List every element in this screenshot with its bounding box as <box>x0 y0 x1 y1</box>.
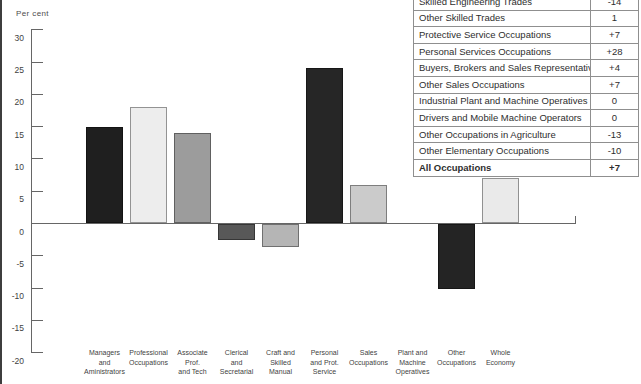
y-tick-label: 15 <box>0 130 24 140</box>
y-tick-label: 30 <box>0 33 24 43</box>
y-tick-label: 10 <box>0 162 24 172</box>
y-tick <box>31 255 43 256</box>
table-row: Protective Service Occupations+7 <box>414 27 639 44</box>
x-axis-end-tick <box>575 216 576 224</box>
table-row: All Occupations+7 <box>414 159 639 176</box>
occupation-value-cell: -14 <box>591 0 639 10</box>
occupation-value-cell: 0 <box>591 110 639 127</box>
occupation-name-cell: Skilled Engineering Trades <box>414 0 591 10</box>
y-tick <box>31 191 43 192</box>
y-tick <box>31 126 43 127</box>
y-tick <box>31 62 43 63</box>
occupation-value-cell: 0 <box>591 93 639 110</box>
occupation-name-cell: Other Skilled Trades <box>414 10 591 27</box>
table-row: Other Skilled Trades1 <box>414 10 639 27</box>
occupation-name-cell: Other Sales Occupations <box>414 76 591 93</box>
y-tick <box>31 352 43 353</box>
occupation-value-cell: 1 <box>591 10 639 27</box>
occupation-name-cell: Other Elementary Occupations <box>414 143 591 160</box>
occupation-value-cell: +7 <box>591 27 639 44</box>
y-tick <box>31 94 43 95</box>
table-row: Buyers, Brokers and Sales Representative… <box>414 60 639 77</box>
occupation-value-cell: +7 <box>591 76 639 93</box>
table-row: Other Elementary Occupations-10 <box>414 143 639 160</box>
bar-clerical-and-secretarial <box>218 224 255 240</box>
bar-professional-occupations <box>130 107 167 223</box>
occupation-value-cell: +4 <box>591 60 639 77</box>
bar-managers-and-aministrators <box>86 127 123 224</box>
y-tick-label: 5 <box>0 194 24 204</box>
occupation-value-cell: -13 <box>591 126 639 143</box>
occupation-name-cell: Drivers and Mobile Machine Operators <box>414 110 591 127</box>
table-row: Drivers and Mobile Machine Operators0 <box>414 110 639 127</box>
occupation-name-cell: Buyers, Brokers and Sales Representative… <box>414 60 591 77</box>
occupation-name-cell: Personal Services Occupations <box>414 43 591 60</box>
y-tick <box>31 288 43 289</box>
y-tick-label: 0 <box>0 227 24 237</box>
y-tick-label: -20 <box>0 356 24 366</box>
occupation-name-cell: Other Occupations in Agriculture <box>414 126 591 143</box>
bar-sales-occupations <box>350 185 387 224</box>
table-row: Skilled Engineering Trades-14 <box>414 0 639 10</box>
y-tick-label: -10 <box>0 291 24 301</box>
y-tick <box>31 29 43 30</box>
occupation-value-cell: +28 <box>591 43 639 60</box>
y-tick-label: -5 <box>0 259 24 269</box>
y-tick-label: 20 <box>0 97 24 107</box>
y-tick <box>31 158 43 159</box>
bar-other-occupations <box>438 224 475 289</box>
bar-craft-and-skilled-manual <box>262 224 299 247</box>
bar-whole-economy <box>482 178 519 223</box>
y-tick-label: -15 <box>0 323 24 333</box>
table-row: Other Occupations in Agriculture-13 <box>414 126 639 143</box>
occupation-name-cell: Industrial Plant and Machine Operatives <box>414 93 591 110</box>
table-row: Personal Services Occupations+28 <box>414 43 639 60</box>
occupation-name-cell: Protective Service Occupations <box>414 27 591 44</box>
occupation-name-cell: All Occupations <box>414 159 591 176</box>
table-row: Other Sales Occupations+7 <box>414 76 639 93</box>
table-row: Industrial Plant and Machine Operatives0 <box>414 93 639 110</box>
y-tick-label: 25 <box>0 65 24 75</box>
occupation-value-cell: +7 <box>591 159 639 176</box>
occupation-value-cell: -10 <box>591 143 639 160</box>
occupations-table: Skilled Engineering Trades-14Other Skill… <box>413 0 639 177</box>
bar-associate-prof-and-tech <box>174 133 211 223</box>
chart-page: Per cent 302520151050-5-10-15-20Managers… <box>0 0 641 384</box>
x-label-whole-economy: WholeEconomy <box>465 348 537 367</box>
y-axis-title: Per cent <box>16 9 49 18</box>
bar-personal-and-prot-service <box>306 68 343 223</box>
y-tick <box>31 320 43 321</box>
